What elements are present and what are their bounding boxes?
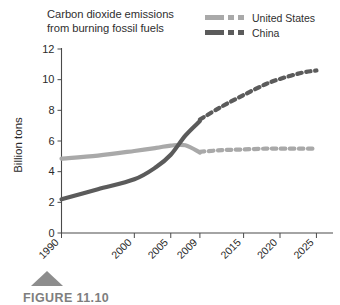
y-tick-label: 10: [42, 73, 54, 85]
x-axis: 1990200020052009201520202025: [36, 233, 333, 261]
y-axis-title: Billion tons: [12, 117, 24, 173]
y-tick-label: 4: [48, 165, 54, 177]
chart-series-group: [62, 70, 317, 199]
y-tick-label: 6: [48, 135, 54, 147]
y-tick-label: 2: [48, 196, 54, 208]
x-tick-label: 2015: [218, 236, 243, 261]
series-line-solid-china: [62, 121, 200, 199]
series-line-projected-united-states: [200, 149, 317, 152]
y-tick-label: 12: [42, 43, 54, 55]
x-tick-label: 2000: [109, 236, 134, 261]
x-tick-label: 1990: [36, 236, 61, 261]
x-tick-label: 2005: [145, 236, 170, 261]
y-axis-title-label: Billion tons: [12, 117, 24, 173]
series-line-projected-china: [200, 70, 317, 119]
y-axis: 024681012: [42, 43, 61, 239]
x-tick-label: 2020: [254, 236, 279, 261]
x-tick-label: 2025: [291, 236, 316, 261]
x-tick-label: 2009: [174, 236, 199, 261]
y-tick-label: 8: [48, 104, 54, 116]
triangle-marker-icon: [31, 271, 63, 286]
figure-caption: FIGURE 11.10: [23, 291, 109, 305]
